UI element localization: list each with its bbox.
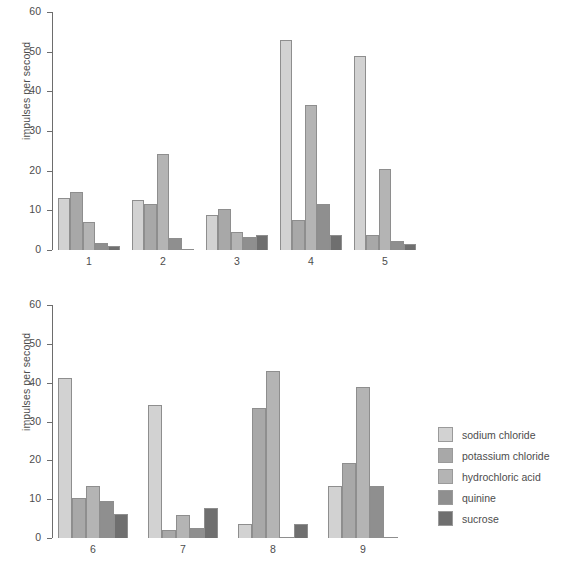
bar-group: 6: [58, 305, 128, 538]
x-tick-label: 2: [132, 255, 194, 267]
y-tick-label: 50: [19, 45, 41, 57]
bar[interactable]: [379, 169, 391, 250]
bar[interactable]: [157, 154, 169, 250]
legend-swatch-icon: [438, 490, 453, 505]
bar[interactable]: [70, 192, 82, 250]
bar-group: 4: [280, 12, 342, 250]
bar[interactable]: [266, 371, 280, 538]
bar[interactable]: [404, 244, 416, 250]
y-tick-label: 20: [19, 164, 41, 176]
bar[interactable]: [294, 524, 308, 538]
x-tick-label: 8: [238, 543, 308, 555]
bar[interactable]: [280, 537, 294, 538]
legend-swatch-icon: [438, 469, 453, 484]
y-tick: [47, 12, 52, 13]
plot-area-top: 12345: [58, 12, 458, 250]
y-tick-label: 60: [19, 5, 41, 17]
legend-label: potassium chloride: [462, 450, 550, 462]
bar[interactable]: [238, 524, 252, 538]
bar[interactable]: [256, 235, 268, 250]
bar[interactable]: [292, 220, 304, 250]
y-tick: [47, 538, 52, 539]
bar-group: 9: [328, 305, 398, 538]
bar[interactable]: [206, 215, 218, 250]
legend-swatch-icon: [438, 427, 453, 442]
y-tick-label: 40: [19, 84, 41, 96]
bar[interactable]: [391, 241, 403, 250]
bar[interactable]: [100, 501, 114, 538]
y-tick: [47, 499, 52, 500]
bar[interactable]: [330, 235, 342, 250]
bar-group: 7: [148, 305, 218, 538]
x-tick-label: 6: [58, 543, 128, 555]
y-tick: [47, 383, 52, 384]
legend-label: quinine: [462, 492, 496, 504]
bar[interactable]: [354, 56, 366, 250]
bar[interactable]: [176, 515, 190, 538]
x-tick-label: 3: [206, 255, 268, 267]
x-tick-label: 1: [58, 255, 120, 267]
y-tick-label: 10: [19, 492, 41, 504]
bar[interactable]: [83, 222, 95, 250]
bar-group-bars: [280, 12, 342, 250]
y-tick: [47, 344, 52, 345]
y-tick: [47, 210, 52, 211]
legend-item[interactable]: quinine: [438, 487, 571, 508]
legend-swatch-icon: [438, 448, 453, 463]
bar[interactable]: [108, 246, 120, 250]
bar[interactable]: [317, 204, 329, 250]
bar-group: 8: [238, 305, 308, 538]
y-tick: [47, 460, 52, 461]
bar[interactable]: [132, 200, 144, 250]
bar[interactable]: [384, 537, 398, 538]
y-tick: [47, 52, 52, 53]
bar[interactable]: [280, 40, 292, 250]
bar[interactable]: [58, 198, 70, 250]
bar[interactable]: [252, 408, 266, 538]
bar[interactable]: [148, 405, 162, 538]
legend-item[interactable]: hydrochloric acid: [438, 466, 571, 487]
bar[interactable]: [86, 486, 100, 538]
bar[interactable]: [370, 486, 384, 538]
y-tick-label: 40: [19, 376, 41, 388]
y-tick-label: 0: [19, 531, 41, 543]
legend-label: hydrochloric acid: [462, 471, 541, 483]
bar[interactable]: [144, 204, 156, 250]
bar[interactable]: [218, 209, 230, 250]
y-tick: [47, 131, 52, 132]
chart-panel-top: impulses per second 0102030405060 12345: [0, 0, 571, 290]
bar[interactable]: [190, 528, 204, 538]
bar[interactable]: [72, 498, 86, 538]
y-axis-line-top: [52, 12, 53, 250]
bar-group-bars: [148, 305, 218, 538]
bar-group-bars: [132, 12, 194, 250]
y-axis-line-bottom: [52, 305, 53, 538]
bar[interactable]: [114, 514, 128, 538]
bar[interactable]: [95, 243, 107, 250]
bar[interactable]: [305, 105, 317, 250]
bar-group: 1: [58, 12, 120, 250]
bar[interactable]: [204, 508, 218, 538]
y-tick: [47, 91, 52, 92]
bar[interactable]: [356, 387, 370, 538]
x-tick-label: 9: [328, 543, 398, 555]
bar-group-bars: [58, 12, 120, 250]
bar[interactable]: [182, 249, 194, 250]
bar[interactable]: [58, 378, 72, 538]
legend-label: sodium chloride: [462, 429, 536, 441]
y-tick: [47, 422, 52, 423]
legend-item[interactable]: sucrose: [438, 508, 571, 529]
bar-group: 3: [206, 12, 268, 250]
bar[interactable]: [342, 463, 356, 538]
bar[interactable]: [231, 232, 243, 250]
y-tick-label: 10: [19, 203, 41, 215]
bar-group-bars: [354, 12, 416, 250]
x-tick-label: 7: [148, 543, 218, 555]
bar[interactable]: [328, 486, 342, 538]
bar[interactable]: [169, 238, 181, 250]
legend-item[interactable]: potassium chloride: [438, 445, 571, 466]
legend-item[interactable]: sodium chloride: [438, 424, 571, 445]
bar[interactable]: [366, 235, 378, 250]
bar[interactable]: [162, 530, 176, 538]
bar[interactable]: [243, 237, 255, 250]
